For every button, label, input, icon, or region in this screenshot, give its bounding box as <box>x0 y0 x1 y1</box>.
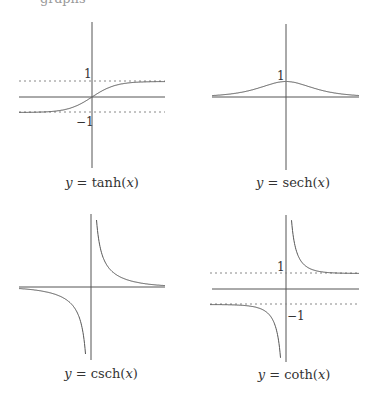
caption-x: x <box>126 175 133 190</box>
caption-eq: = csch( <box>72 366 126 381</box>
caption-tanh: y = tanh(x) <box>65 175 139 190</box>
caption-eq: = sech( <box>263 175 317 190</box>
caption-close: ) <box>325 367 330 382</box>
caption-x: x <box>318 367 325 382</box>
plot-tanh: 1 −1 <box>19 22 165 168</box>
caption-close: ) <box>325 175 330 190</box>
caption-coth: y = coth(x) <box>258 367 331 382</box>
plot-csch <box>19 214 165 360</box>
caption-sech: y = sech(x) <box>256 175 330 190</box>
tick-label-1: 1 <box>277 69 285 83</box>
caption-x: x <box>318 175 325 190</box>
caption-eq: = tanh( <box>72 175 126 190</box>
plot-sech: 1 <box>212 24 359 170</box>
tick-label-neg1: −1 <box>287 309 305 323</box>
tick-label-neg1: −1 <box>76 115 94 129</box>
plot-coth: 1 −1 <box>210 215 359 362</box>
caption-csch: y = csch(x) <box>64 366 138 381</box>
caption-x: x <box>125 366 132 381</box>
hyperbolic-function-plots: 1 −1 1 1 −1 <box>0 0 375 400</box>
caption-close: ) <box>133 366 138 381</box>
caption-eq: = coth( <box>265 367 318 382</box>
tick-label-1: 1 <box>84 67 92 81</box>
tick-label-1: 1 <box>277 260 285 274</box>
caption-close: ) <box>134 175 139 190</box>
